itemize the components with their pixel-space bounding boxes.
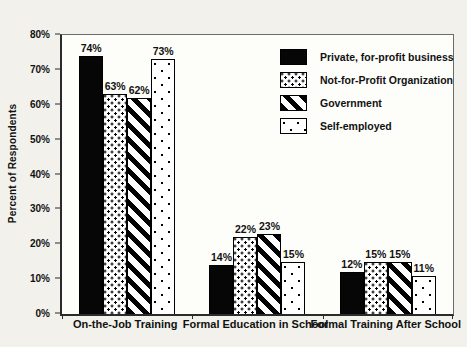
bar-value-label: 14% (211, 251, 232, 263)
legend-item: Government (280, 95, 454, 111)
y-tick-label: 50% (30, 133, 50, 144)
y-tick-label: 80% (30, 29, 50, 40)
y-tick-label: 10% (30, 273, 50, 284)
bar-dots-dense: 15% (364, 262, 388, 314)
bar-dots-dense: 22% (233, 237, 257, 314)
bar-value-label: 74% (81, 42, 102, 54)
bar-dots-sparse: 11% (412, 276, 436, 314)
y-tick-label: 40% (30, 168, 50, 179)
bar-value-label: 22% (235, 223, 256, 235)
x-category-label: Formal Training After School (311, 318, 462, 330)
bar-value-label: 73% (153, 45, 174, 57)
legend: Private, for-profit businessNot-for-Prof… (280, 49, 454, 134)
bar-value-label: 15% (389, 248, 410, 260)
y-tick-label: 30% (30, 203, 50, 214)
legend-swatch-dots-dense (280, 72, 307, 88)
legend-label: Not-for-Profit Organization (320, 74, 453, 86)
legend-item: Not-for-Profit Organization (280, 72, 454, 88)
bar-value-label: 62% (129, 84, 150, 96)
bar-value-label: 63% (105, 80, 126, 92)
bar-value-label: 15% (365, 248, 386, 260)
legend-item: Self-employed (280, 118, 454, 134)
legend-item: Private, for-profit business (280, 49, 454, 65)
bar-dots-sparse: 15% (281, 262, 305, 314)
legend-swatch-solid (280, 49, 307, 65)
legend-label: Private, for-profit business (320, 51, 454, 63)
legend-label: Government (320, 97, 382, 109)
bar-chart-figure: Percent of Respondents 0%10%20%30%40%50%… (0, 0, 467, 347)
y-tick-label: 60% (30, 98, 50, 109)
x-tick-mark (62, 314, 63, 319)
plot-area: 74%63%62%73%14%22%23%15%12%15%15%11% Pri… (60, 34, 454, 316)
legend-swatch-hatch (280, 95, 307, 111)
bar-hatch: 23% (257, 234, 281, 314)
x-category-label: On-the-Job Training (73, 318, 178, 330)
bar-value-label: 23% (259, 220, 280, 232)
y-axis-tick-labels: 0%10%20%30%40%50%60%70%80% (0, 34, 60, 313)
bar-dots-sparse: 73% (151, 59, 175, 314)
legend-swatch-dots-sparse (280, 118, 307, 134)
y-tick-label: 70% (30, 63, 50, 74)
y-tick-label: 0% (36, 308, 50, 319)
bar-value-label: 11% (414, 262, 434, 274)
bar-solid: 74% (79, 56, 103, 314)
y-tick-label: 20% (30, 238, 50, 249)
bar-value-label: 15% (283, 248, 304, 260)
bar-solid: 12% (340, 272, 364, 314)
bar-value-label: 12% (341, 258, 362, 270)
bar-solid: 14% (209, 265, 233, 314)
bar-dots-dense: 63% (103, 94, 127, 314)
bar-group: 74%63%62%73% (62, 35, 192, 314)
bar-hatch: 62% (127, 98, 151, 314)
legend-label: Self-employed (320, 120, 392, 132)
x-category-label: Formal Education in School (183, 318, 328, 330)
bar-hatch: 15% (388, 262, 412, 314)
